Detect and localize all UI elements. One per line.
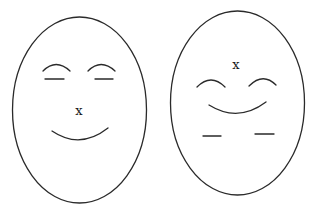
left-face-left-brow: [43, 65, 70, 72]
left-face-smile: [52, 128, 108, 140]
right-face-outline: [171, 11, 305, 195]
faces-diagram: x x: [0, 0, 316, 209]
left-face-right-brow: [88, 65, 115, 72]
right-face-x-marker: x: [232, 57, 240, 72]
right-face-smile: [209, 102, 266, 113]
left-face: x: [13, 17, 147, 203]
right-face-right-brow: [249, 79, 276, 86]
right-face-left-brow: [197, 80, 225, 87]
left-face-x-marker: x: [75, 103, 83, 118]
right-face: x: [171, 11, 305, 195]
